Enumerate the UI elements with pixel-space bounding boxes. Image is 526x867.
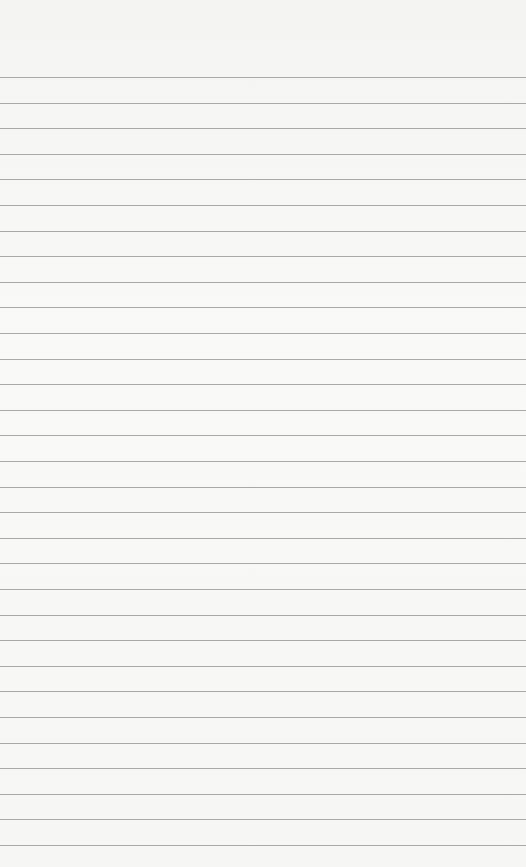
ruled-line	[0, 845, 526, 846]
ruled-line	[0, 128, 526, 129]
ruled-line	[0, 666, 526, 667]
ruled-line	[0, 154, 526, 155]
ruled-line	[0, 691, 526, 692]
ruled-line	[0, 512, 526, 513]
ruled-line	[0, 768, 526, 769]
ruled-line	[0, 282, 526, 283]
ruled-line	[0, 231, 526, 232]
ruled-line	[0, 743, 526, 744]
ruled-line	[0, 538, 526, 539]
ruled-line	[0, 103, 526, 104]
ruled-line	[0, 359, 526, 360]
ruled-line	[0, 333, 526, 334]
ruled-line	[0, 487, 526, 488]
ruled-line	[0, 640, 526, 641]
ruled-line	[0, 205, 526, 206]
ruled-line	[0, 77, 526, 78]
ruled-line	[0, 819, 526, 820]
ruled-line	[0, 794, 526, 795]
ruled-line	[0, 179, 526, 180]
ruled-line	[0, 410, 526, 411]
ruled-line	[0, 435, 526, 436]
ruled-line	[0, 589, 526, 590]
lined-paper-sheet	[0, 0, 526, 867]
ruled-line	[0, 384, 526, 385]
ruled-line	[0, 256, 526, 257]
ruled-line	[0, 307, 526, 308]
ruled-line	[0, 717, 526, 718]
ruled-line	[0, 563, 526, 564]
ruled-line	[0, 461, 526, 462]
ruled-line	[0, 615, 526, 616]
